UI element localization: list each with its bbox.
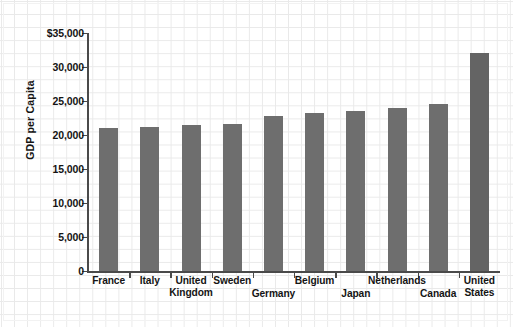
- category-label-belgium: Belgium: [295, 275, 335, 287]
- bar-france: [99, 128, 118, 271]
- y-tick-label: $35,000: [47, 27, 84, 39]
- x-axis-category-labels: FranceItalyUnitedKingdomSwedenGermanyBel…: [88, 275, 500, 315]
- category-label-italy: Italy: [140, 275, 160, 287]
- y-axis-title: GDP per Capita: [24, 80, 36, 160]
- category-label-sweden: Sweden: [213, 275, 251, 287]
- y-tick-label: 15,000: [52, 163, 84, 175]
- chart-figure: GDP per Capita $35,00030,00025,00020,000…: [0, 0, 513, 327]
- bar-united-states: [470, 53, 489, 271]
- y-tick-label: 30,000: [52, 61, 84, 73]
- category-label-line: Kingdom: [169, 287, 212, 299]
- category-label-line: Canada: [420, 288, 456, 300]
- bar-series: [88, 33, 500, 271]
- y-tick-label: 25,000: [52, 95, 84, 107]
- category-label-line: Sweden: [213, 275, 251, 287]
- category-label-line: Germany: [252, 288, 295, 300]
- y-tick-label: 20,000: [52, 129, 84, 141]
- plot-area: $35,00030,00025,00020,00015,00010,0005,0…: [88, 33, 500, 271]
- category-label-line: Japan: [341, 288, 370, 300]
- category-label-canada: Canada: [420, 288, 456, 300]
- bar-germany: [264, 116, 283, 271]
- y-tick-label: 10,000: [52, 197, 84, 209]
- category-label-line: United: [464, 275, 495, 287]
- category-label-united-kingdom: UnitedKingdom: [169, 275, 212, 298]
- bar-japan: [346, 111, 365, 271]
- y-tick-label: 5,000: [58, 231, 84, 243]
- category-label-line: Netherlands: [368, 275, 426, 287]
- category-label-line: States: [464, 287, 495, 299]
- bar-italy: [140, 127, 159, 271]
- category-label-line: Italy: [140, 275, 160, 287]
- bar-belgium: [305, 113, 324, 271]
- category-label-germany: Germany: [252, 288, 295, 300]
- category-label-japan: Japan: [341, 288, 370, 300]
- bar-sweden: [223, 124, 242, 271]
- y-tick-label: 0: [78, 265, 84, 277]
- bar-netherlands: [388, 108, 407, 271]
- bar-canada: [429, 104, 448, 271]
- category-label-line: Belgium: [295, 275, 335, 287]
- category-label-line: France: [92, 275, 125, 287]
- category-label-france: France: [92, 275, 125, 287]
- category-label-united-states: UnitedStates: [464, 275, 495, 298]
- category-label-line: United: [169, 275, 212, 287]
- bar-united-kingdom: [182, 125, 201, 271]
- category-label-netherlands: Netherlands: [368, 275, 426, 287]
